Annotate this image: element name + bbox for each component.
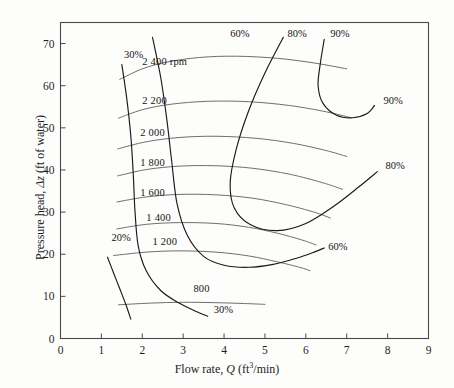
efficiency-label: 90% xyxy=(384,95,403,106)
speed-curve-label: 2 000 xyxy=(140,127,165,138)
y-axis-tick-label: 70 xyxy=(27,38,55,50)
y-axis-title-symbol: Δz xyxy=(33,176,47,188)
efficiency-contour-curve xyxy=(108,257,131,319)
speed-curve-label: 1 200 xyxy=(153,236,178,247)
speed-curve-label: 800 xyxy=(193,283,209,294)
efficiency-label: 30% xyxy=(214,304,233,315)
efficiency-label: 20% xyxy=(112,232,131,243)
x-axis-tick-label: 2 xyxy=(139,344,145,356)
x-axis-tick-label: 6 xyxy=(303,344,309,356)
x-axis-tick-label: 3 xyxy=(180,344,186,356)
x-axis-tick-label: 4 xyxy=(221,344,227,356)
x-axis-tick-label: 0 xyxy=(58,344,64,356)
speed-curve-label: 2 400 rpm xyxy=(142,56,187,67)
y-axis-tick-label: 50 xyxy=(27,122,55,134)
x-axis-tick-label: 1 xyxy=(99,344,105,356)
pump-performance-chart: Flow rate, Q (ft3/min) Pressure head, Δz… xyxy=(0,0,454,388)
y-axis-tick-label: 60 xyxy=(27,80,55,92)
x-axis-title-unit-b: /min) xyxy=(253,362,279,376)
efficiency-label: 60% xyxy=(230,28,249,39)
efficiency-label: 80% xyxy=(287,28,306,39)
efficiency-label: 90% xyxy=(330,28,349,39)
chart-canvas xyxy=(0,0,454,388)
x-axis-tick-label: 8 xyxy=(385,344,391,356)
x-axis-title-unit-a: (ft xyxy=(235,362,249,376)
x-axis-title-prefix: Flow rate, xyxy=(175,362,227,376)
efficiency-contour-curve xyxy=(230,37,377,230)
x-axis-title: Flow rate, Q (ft3/min) xyxy=(0,361,454,377)
y-axis-tick-label: 40 xyxy=(27,164,55,176)
y-axis-tick-label: 10 xyxy=(27,290,55,302)
speed-head-curve xyxy=(117,223,316,245)
efficiency-contour-curve xyxy=(153,37,325,267)
y-axis-title: Pressure head, Δz (ft of water) xyxy=(33,68,48,308)
x-axis-title-symbol: Q xyxy=(226,362,235,376)
x-axis-tick-label: 9 xyxy=(426,344,432,356)
y-axis-tick-label: 0 xyxy=(27,333,55,345)
speed-curve-label: 1 600 xyxy=(140,187,165,198)
y-axis-tick-label: 20 xyxy=(27,248,55,260)
efficiency-contour-curve xyxy=(318,39,375,117)
plot-frame xyxy=(61,23,429,339)
x-axis-tick-label: 7 xyxy=(344,344,350,356)
x-axis-tick-label: 5 xyxy=(262,344,268,356)
speed-curve-label: 2 200 xyxy=(142,95,167,106)
efficiency-label: 30% xyxy=(124,49,143,60)
efficiency-label: 60% xyxy=(328,241,347,252)
speed-curve-label: 1 400 xyxy=(146,212,171,223)
speed-head-curve xyxy=(118,136,347,156)
y-axis-tick-label: 30 xyxy=(27,206,55,218)
efficiency-label: 80% xyxy=(386,160,405,171)
speed-head-curve xyxy=(119,302,265,305)
speed-curve-label: 1 800 xyxy=(140,157,165,168)
